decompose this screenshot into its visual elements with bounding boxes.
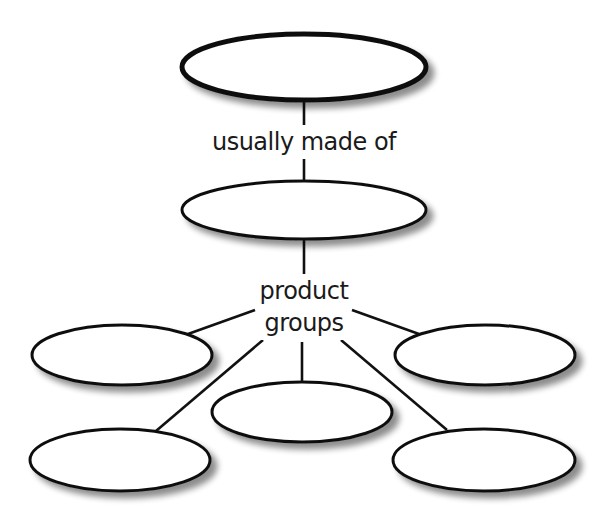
concept-map-graphics [0,0,601,519]
concept-node-group-left [32,325,212,385]
link-label-product: product [256,275,353,308]
link-label-usually-made-of: usually made of [212,126,396,159]
concept-node-middle [182,181,426,239]
concept-node-group-right [395,325,575,385]
connector-label-product-groups-to-group-right [352,310,419,334]
concept-map-canvas: usually made of product groups [0,0,601,519]
concept-node-group-bottom-left [30,429,210,491]
concept-nodes [30,34,575,491]
link-label-groups: groups [260,307,347,340]
concept-node-group-center [212,382,392,442]
concept-node-group-bottom-right [393,429,575,491]
connector-label-product-groups-to-group-left [188,310,255,334]
concept-node-top [182,34,426,100]
